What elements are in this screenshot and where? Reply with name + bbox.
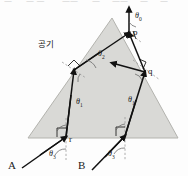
theta-sub: 1 <box>80 102 83 108</box>
theta-sub: 0 <box>139 16 142 22</box>
angle-label-theta1-left: θ1 <box>76 98 83 108</box>
optics-prism-figure: —— — ——— ——— — <box>0 0 188 176</box>
angle-label-theta2-center: θ2 <box>98 50 105 60</box>
theta-sub: 3 <box>112 154 115 160</box>
ray-label-a: A <box>8 160 16 171</box>
ray-label-b: B <box>78 160 85 171</box>
theta-sub: 3 <box>53 154 56 160</box>
point-label-p: p <box>133 28 138 37</box>
angle-label-theta1-right: θ1 <box>128 96 135 106</box>
angle-label-theta0-top: θ0 <box>135 12 142 22</box>
point-label-q: q <box>148 67 153 76</box>
theta-sub: 1 <box>132 100 135 106</box>
angle-label-theta3-right: θ3 <box>108 150 115 160</box>
prism-triangle <box>28 18 178 138</box>
figure-canvas <box>0 0 188 176</box>
point-label-r: r <box>69 135 72 144</box>
medium-label-air: 공기 <box>38 40 54 49</box>
angle-label-theta3-left: θ3 <box>49 150 56 160</box>
theta-sub: 2 <box>102 54 105 60</box>
